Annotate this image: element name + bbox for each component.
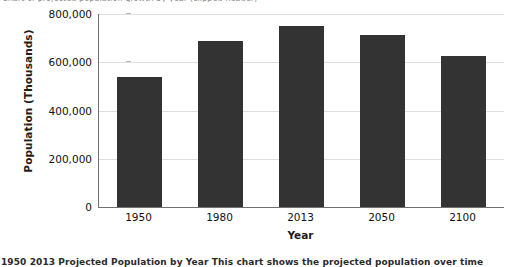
plot-area <box>98 14 504 208</box>
clipped-footer-text: 1950 2013 Projected Population by Year T… <box>0 257 513 267</box>
x-axis-tick-label: 2100 <box>449 211 476 223</box>
y-axis-tick-label: 200,000 <box>34 153 92 165</box>
y-axis-title: Population (Thousands) <box>22 26 34 176</box>
bar[interactable] <box>441 56 486 208</box>
y-axis-tick-labels: 0200,000400,000600,000800,000 <box>34 14 92 214</box>
y-axis-tick-label: 0 <box>34 201 92 213</box>
bar[interactable] <box>198 41 243 207</box>
x-axis-tick-label: 2013 <box>287 211 314 223</box>
bars-layer <box>99 14 504 207</box>
y-axis-tick-label: 800,000 <box>34 8 92 20</box>
x-axis-tick-labels: 19501980201320502100 <box>98 211 503 227</box>
bar[interactable] <box>360 35 405 207</box>
x-axis-tick-label: 1950 <box>125 211 152 223</box>
bar[interactable] <box>117 77 162 207</box>
x-axis-tick-label: 2050 <box>368 211 395 223</box>
x-axis-tick-label: 1980 <box>206 211 233 223</box>
y-axis-tick-label: 600,000 <box>34 56 92 68</box>
y-axis-tick-label: 400,000 <box>34 105 92 117</box>
bar[interactable] <box>279 26 324 207</box>
x-axis-title: Year <box>98 229 503 241</box>
